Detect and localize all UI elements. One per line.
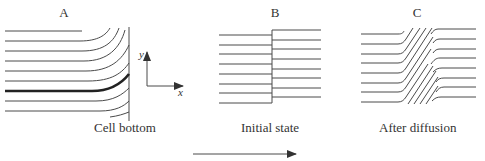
- x-axis-label: x: [177, 86, 183, 98]
- panel-b: B Initial state: [219, 5, 321, 135]
- panel-c-caption: After diffusion: [379, 120, 457, 135]
- panel-b-caption: Initial state: [241, 120, 299, 135]
- panel-a-caption: Cell bottom: [94, 120, 156, 135]
- axes-indicator: y x: [138, 48, 183, 98]
- panel-a-streamlines: [5, 28, 129, 117]
- diagram: A Cell bottom y x B: [0, 0, 485, 161]
- panel-b-right-lines: [272, 30, 321, 97]
- panel-c-label: C: [413, 5, 422, 20]
- panel-c-right-lines: [431, 29, 476, 101]
- panel-a-label: A: [59, 5, 69, 20]
- panel-b-label: B: [271, 5, 280, 20]
- panel-a: A Cell bottom: [5, 5, 156, 135]
- panel-b-left-lines: [219, 35, 272, 103]
- panel-c: C After diffusion: [361, 5, 476, 135]
- y-axis-label: y: [138, 48, 144, 60]
- highlighted-streamline: [5, 74, 129, 91]
